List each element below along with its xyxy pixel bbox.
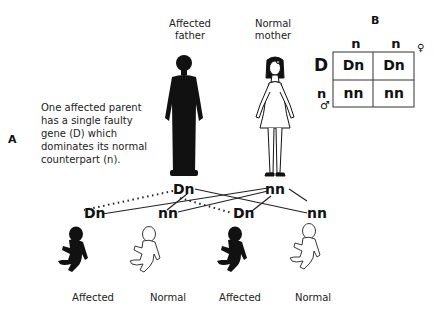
normal-mother-icon	[256, 57, 294, 176]
child3-label: Affected	[210, 292, 270, 304]
child1-genotype: Dn	[84, 205, 106, 221]
child2-label: Normal	[138, 292, 198, 304]
affected-father-icon	[165, 55, 203, 176]
male-symbol-icon: ♂	[320, 99, 330, 112]
child3-genotype: Dn	[233, 205, 255, 221]
punnett-col-header: n	[346, 36, 366, 51]
child4-genotype: nn	[307, 205, 327, 221]
punnett-cell: Dn	[374, 57, 414, 73]
normal-child-icon	[130, 227, 160, 273]
punnett-cell: nn	[334, 85, 373, 101]
punnett-row-header: D	[314, 55, 328, 75]
normal-child-icon	[290, 224, 320, 270]
mother-to-child3	[252, 196, 271, 211]
father-genotype: Dn	[173, 181, 195, 197]
female-symbol-icon: ♀	[417, 42, 424, 53]
inheritance-diagram	[0, 0, 441, 319]
punnett-cell: nn	[374, 85, 414, 101]
child4-label: Normal	[283, 292, 343, 304]
affected-child-icon	[217, 227, 247, 273]
mother-genotype: nn	[265, 181, 285, 197]
punnett-col-header: n	[386, 36, 406, 51]
child1-label: Affected	[63, 292, 123, 304]
punnett-cell: Dn	[334, 57, 373, 73]
child2-genotype: nn	[158, 205, 178, 221]
mother-to-child4	[289, 189, 307, 201]
affected-child-icon	[58, 227, 88, 273]
